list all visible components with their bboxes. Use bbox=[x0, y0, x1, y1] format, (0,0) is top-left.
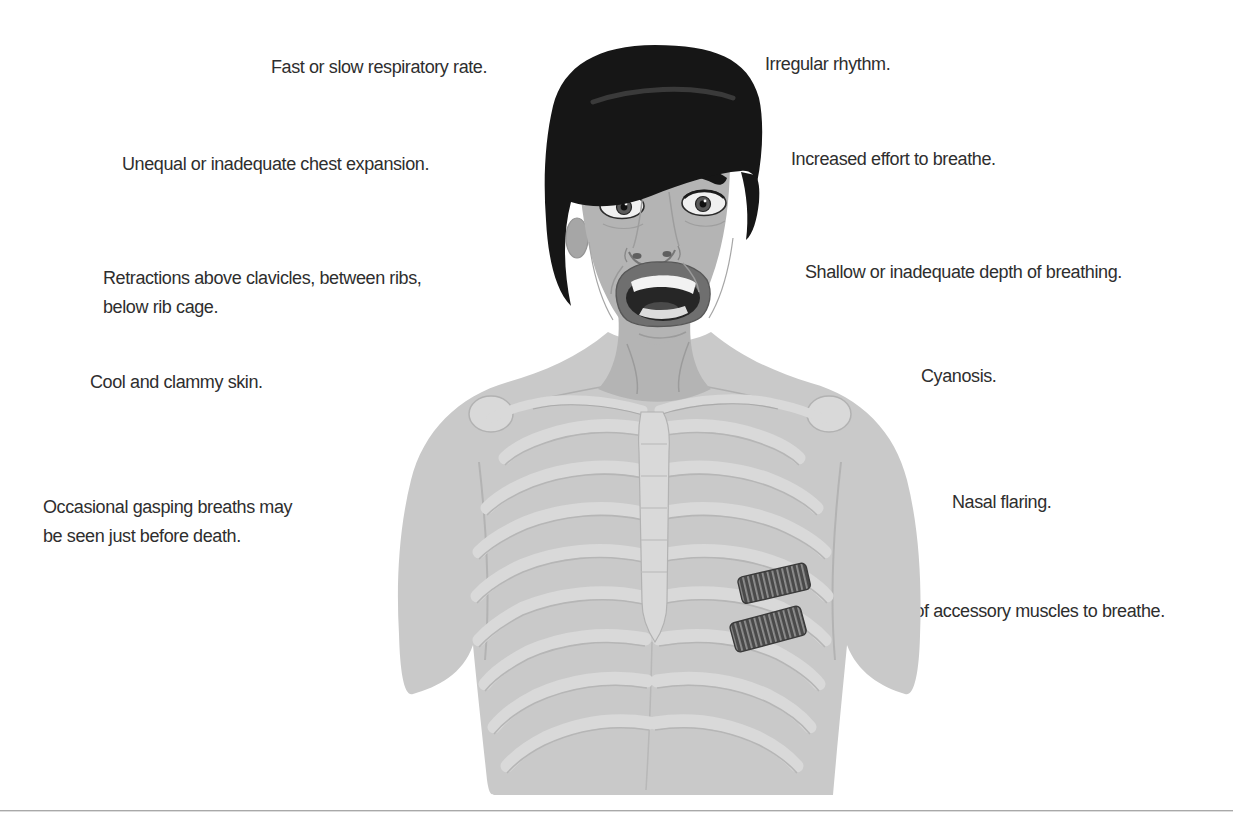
left-nostril bbox=[633, 253, 642, 259]
right-nostril bbox=[663, 251, 672, 257]
label-gasping-line2: be seen just before death. bbox=[43, 522, 292, 551]
label-occasional-gasping-breaths: Occasional gasping breaths may be seen j… bbox=[43, 493, 292, 551]
sternum bbox=[639, 412, 670, 642]
right-sideburn bbox=[741, 172, 759, 240]
label-unequal-chest-expansion: Unequal or inadequate chest expansion. bbox=[122, 150, 429, 179]
label-cool-and-clammy-skin: Cool and clammy skin. bbox=[90, 368, 263, 397]
figure-man-respiratory-distress bbox=[393, 42, 923, 802]
label-nasal-flaring: Nasal flaring. bbox=[952, 488, 1051, 517]
label-cyanosis: Cyanosis. bbox=[921, 362, 996, 391]
label-retractions-line1: Retractions above clavicles, between rib… bbox=[103, 264, 421, 293]
label-retractions: Retractions above clavicles, between rib… bbox=[103, 264, 421, 322]
page: Fast or slow respiratory rate. Unequal o… bbox=[0, 0, 1233, 818]
mouth-open bbox=[616, 262, 710, 327]
label-gasping-line1: Occasional gasping breaths may bbox=[43, 493, 292, 522]
bottom-divider-line bbox=[0, 810, 1233, 811]
label-retractions-line2: below rib cage. bbox=[103, 293, 421, 322]
